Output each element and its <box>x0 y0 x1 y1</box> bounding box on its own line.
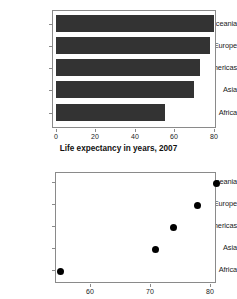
dot-xtick-80 <box>210 284 211 287</box>
bar-xticklabel-20: 20 <box>85 133 105 141</box>
bar-chart-figure: Oceania Europe Americas Asia Africa 0 20… <box>0 0 237 160</box>
bar-xticklabel-0: 0 <box>46 133 66 141</box>
bar-xtick-0 <box>56 129 57 132</box>
bar-xticklabel-80: 80 <box>204 133 224 141</box>
dot-xticklabel-60: 60 <box>80 288 100 296</box>
dot-xtick-70 <box>150 284 151 287</box>
dot-plot-area <box>55 172 216 283</box>
bar-americas <box>56 59 200 76</box>
bar-xtick-20 <box>95 129 96 132</box>
bar-xtick-40 <box>135 129 136 132</box>
bar-xtick-80 <box>214 129 215 132</box>
point-europe <box>194 202 201 209</box>
bar-plot-area <box>52 10 216 128</box>
bar-asia <box>56 81 194 98</box>
bar-xticklabel-40: 40 <box>125 133 145 141</box>
bar-europe <box>56 37 210 54</box>
bar-xticklabel-60: 60 <box>164 133 184 141</box>
figure-page: Oceania Europe Americas Asia Africa 0 20… <box>0 0 237 299</box>
point-americas <box>170 224 177 231</box>
dot-xticklabel-70: 70 <box>140 288 160 296</box>
point-africa <box>57 268 64 275</box>
bar-africa <box>56 104 165 121</box>
bar-xtick-60 <box>174 129 175 132</box>
dot-xtick-60 <box>90 284 91 287</box>
point-asia <box>152 246 159 253</box>
point-oceania <box>213 180 220 187</box>
dot-xticklabel-80: 80 <box>200 288 220 296</box>
bar-axis-title: Life expectancy in years, 2007 <box>0 144 237 153</box>
bar-oceania <box>56 15 214 32</box>
dot-chart-figure: Oceania Europe Americas Asia Africa 60 7… <box>0 160 237 299</box>
